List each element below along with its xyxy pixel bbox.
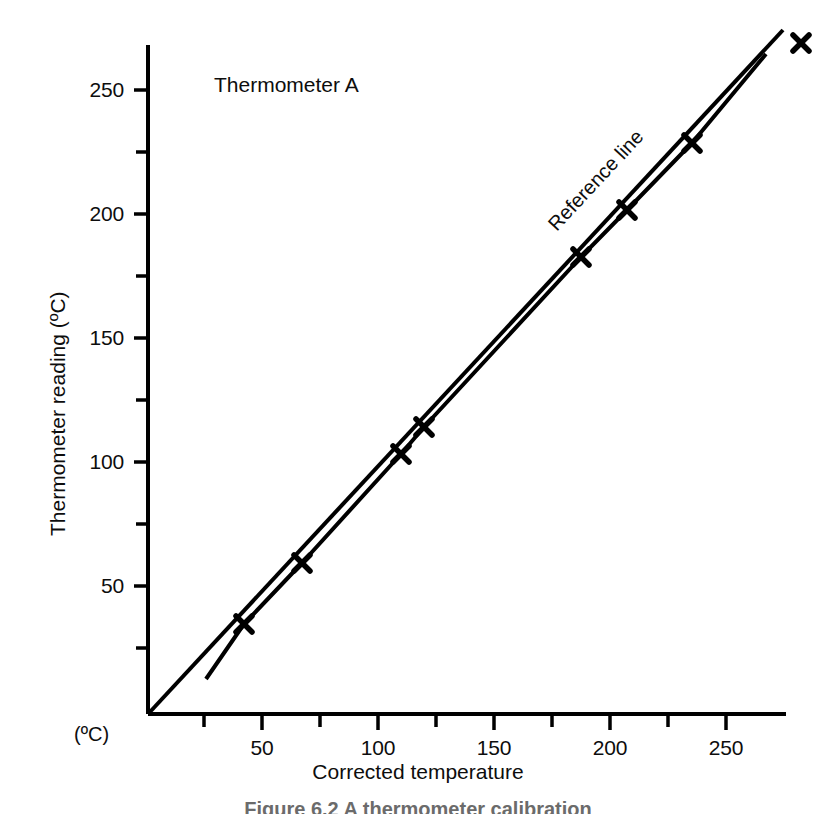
y-tick-label-200: 200 bbox=[62, 202, 124, 226]
y-tick-label-50: 50 bbox=[62, 574, 124, 598]
figure-root: 250 200 150 100 50 50 100 150 200 250 (º… bbox=[0, 0, 836, 814]
data-point-marker bbox=[294, 555, 310, 571]
x-tick-label-200: 200 bbox=[580, 736, 640, 760]
data-point-marker bbox=[573, 249, 589, 265]
data-point-marker bbox=[793, 35, 809, 51]
y-axis-major-ticks bbox=[134, 90, 148, 586]
x-tick-label-50: 50 bbox=[232, 736, 292, 760]
figure-caption: Figure 6.2 A thermometer calibration bbox=[0, 796, 836, 814]
thermometer-calibration-chart bbox=[0, 0, 836, 814]
x-tick-label-250: 250 bbox=[696, 736, 756, 760]
x-tick-label-100: 100 bbox=[348, 736, 408, 760]
x-axis-major-ticks bbox=[262, 714, 726, 730]
data-point-marker bbox=[684, 135, 700, 151]
series-label-thermometer-a: Thermometer A bbox=[214, 73, 359, 97]
x-axis-title: Corrected temperature bbox=[0, 760, 836, 784]
y-tick-label-250: 250 bbox=[62, 78, 124, 102]
thermometer-a-data-line bbox=[206, 54, 766, 679]
data-point-marker bbox=[236, 616, 252, 632]
y-tick-label-100: 100 bbox=[62, 450, 124, 474]
data-point-marker bbox=[619, 202, 635, 218]
data-point-marker bbox=[416, 419, 432, 435]
data-point-marker bbox=[393, 446, 409, 462]
y-axis-title: Thermometer reading (ºC) bbox=[46, 291, 70, 536]
x-tick-label-150: 150 bbox=[464, 736, 524, 760]
y-tick-label-150: 150 bbox=[62, 326, 124, 350]
x-axis-unit-label: (ºC) bbox=[74, 723, 109, 746]
reference-line bbox=[149, 30, 783, 713]
